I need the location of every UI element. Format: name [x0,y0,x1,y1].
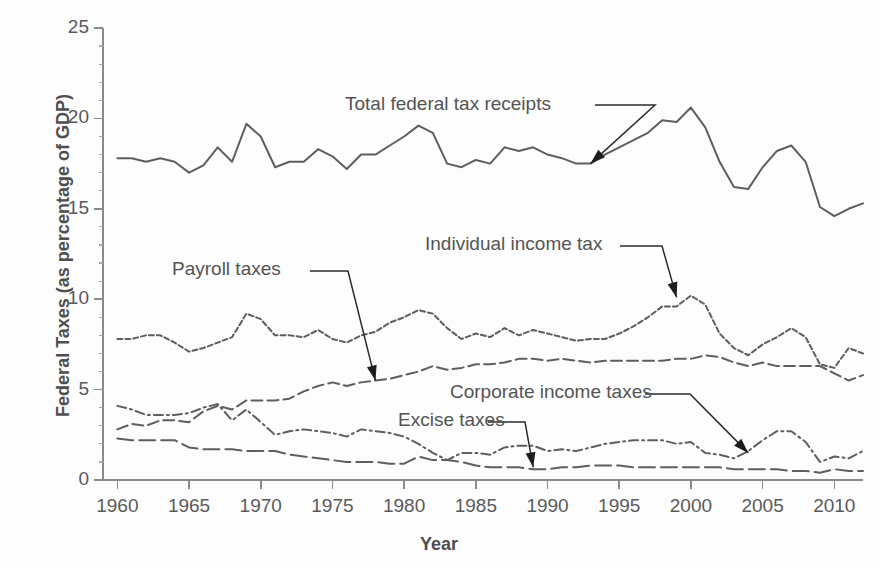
x-tick-label: 1965 [149,495,229,517]
annotation-leader-3 [645,394,748,453]
annotation-label-3: Corporate income taxes [450,381,652,403]
y-tick-label: 25 [31,16,89,38]
x-tick-label: 1995 [579,495,659,517]
annotation-label-0: Total federal tax receipts [345,93,551,115]
series-line-1 [117,296,863,368]
annotation-label-4: Excise taxes [398,409,505,431]
annotation-arrowhead-2 [367,365,377,381]
x-tick-label: 1970 [221,495,301,517]
x-tick-label: 1960 [77,495,157,517]
x-tick-label: 1975 [292,495,372,517]
x-tick-label: 2000 [651,495,731,517]
annotation-leader-1 [620,246,677,297]
annotation-arrowhead-1 [668,282,678,298]
x-tick-label: 1990 [508,495,588,517]
y-tick-label: 0 [31,468,89,490]
series-line-0 [117,108,863,216]
x-tick-label: 2010 [794,495,874,517]
annotation-leader-2 [310,271,375,381]
annotation-label-1: Individual income tax [425,233,602,255]
annotation-label-2: Payroll taxes [172,258,281,280]
chart-plot-area [0,0,878,568]
annotation-arrowhead-4 [526,452,536,468]
y-axis-title: Federal Taxes (as percentage of GDP) [53,46,74,466]
x-tick-label: 1980 [364,495,444,517]
x-tick-label: 2005 [723,495,803,517]
x-axis-title: Year [0,534,878,555]
chart-annotation-leaders [310,105,748,467]
x-tick-label: 1985 [436,495,516,517]
chart-figure: 0510152025 19601965197019751980198519901… [0,0,878,568]
